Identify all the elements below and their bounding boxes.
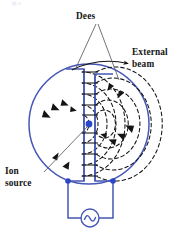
- cyclotron-figure: Dees External beam Ion source: [0, 0, 181, 248]
- ion-source-label-line2: source: [5, 178, 32, 188]
- ac-source: [81, 209, 99, 227]
- scan-artifact: [12, 2, 21, 6]
- dees-label: Dees: [76, 11, 95, 21]
- external-beam-label-line1: External: [132, 47, 168, 57]
- center-ion-dot: [86, 121, 93, 128]
- cyclotron-diagram-canvas: Dees External beam Ion source: [0, 0, 181, 248]
- ion-source-label-line1: Ion: [5, 166, 20, 176]
- spiral-trajectory: [82, 67, 162, 181]
- external-beam-label-line2: beam: [132, 59, 154, 69]
